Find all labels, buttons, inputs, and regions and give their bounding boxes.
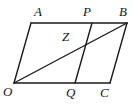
vertex-label-Q: Q bbox=[66, 86, 75, 99]
geometry-figure: A P B Z O Q C bbox=[0, 0, 137, 107]
vertex-label-O: O bbox=[3, 85, 12, 98]
side-OA bbox=[14, 23, 31, 83]
vertex-label-B: B bbox=[119, 5, 127, 18]
transversal-PQ bbox=[75, 23, 92, 83]
vertex-label-A: A bbox=[34, 5, 42, 18]
segment-group bbox=[14, 23, 127, 83]
side-CB bbox=[110, 23, 127, 83]
vertex-label-P: P bbox=[83, 5, 91, 18]
vertex-label-C: C bbox=[100, 86, 109, 99]
diagonal-OB bbox=[14, 23, 127, 83]
vertex-label-Z: Z bbox=[62, 30, 69, 43]
